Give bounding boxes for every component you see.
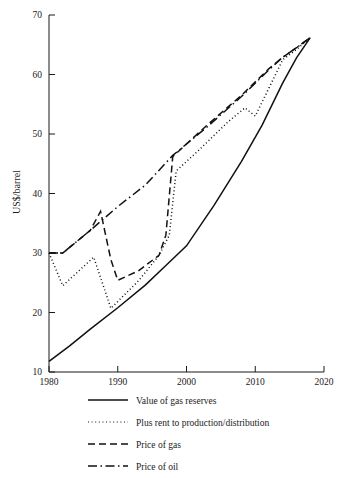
y-axis-title: US$/barrel: [11, 170, 22, 214]
chart-figure: US$/barrel 10203040506070 19801990200020…: [0, 0, 345, 478]
legend-label-0: Value of gas reserves: [136, 396, 217, 406]
x-tick-label: 2010: [246, 377, 265, 387]
series-line-1: [49, 38, 310, 309]
x-tick-label: 2020: [315, 377, 334, 387]
y-axis-ticks: 10203040506070: [33, 10, 56, 377]
y-tick-label: 50: [33, 129, 43, 139]
legend-label-3: Price of oil: [136, 462, 179, 472]
legend-label-2: Price of gas: [136, 440, 181, 450]
chart-legend: Value of gas reservesPlus rent to produc…: [88, 396, 270, 472]
series-line-3: [49, 38, 310, 253]
series-line-0: [49, 38, 310, 362]
y-tick-label: 10: [33, 367, 43, 377]
x-axis-ticks: 19801990200020102020: [40, 366, 334, 387]
y-tick-label: 20: [33, 308, 43, 318]
y-tick-label: 70: [33, 10, 43, 20]
line-chart: US$/barrel 10203040506070 19801990200020…: [0, 0, 345, 478]
y-tick-label: 40: [33, 189, 43, 199]
legend-label-1: Plus rent to production/distribution: [136, 418, 270, 428]
series-layer: [49, 38, 310, 362]
x-tick-label: 2000: [177, 377, 196, 387]
x-tick-label: 1980: [40, 377, 59, 387]
series-line-2: [49, 38, 310, 281]
y-tick-label: 60: [33, 70, 43, 80]
x-tick-label: 1990: [108, 377, 127, 387]
y-tick-label: 30: [33, 248, 43, 258]
